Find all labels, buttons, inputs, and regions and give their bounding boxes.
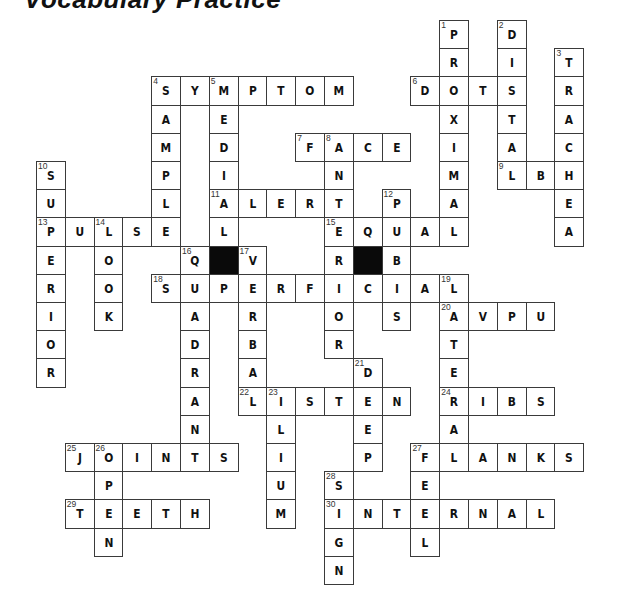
crossword-cell[interactable]: A: [180, 387, 210, 416]
crossword-cell[interactable]: T: [324, 189, 354, 218]
crossword-cell[interactable]: N: [468, 499, 498, 528]
crossword-cell[interactable]: S: [382, 302, 412, 331]
crossword-cell[interactable]: R: [36, 358, 66, 387]
crossword-cell[interactable]: E: [382, 133, 412, 162]
crossword-cell[interactable]: K: [94, 302, 124, 331]
crossword-cell[interactable]: Q: [353, 217, 383, 246]
crossword-cell[interactable]: X: [439, 105, 469, 134]
crossword-cell[interactable]: L: [266, 415, 296, 444]
crossword-cell[interactable]: 7F: [295, 133, 325, 162]
crossword-cell[interactable]: 20A: [439, 302, 469, 331]
crossword-cell[interactable]: C: [353, 274, 383, 303]
crossword-cell[interactable]: R: [439, 499, 469, 528]
crossword-cell[interactable]: L: [439, 443, 469, 472]
crossword-cell[interactable]: P: [497, 302, 527, 331]
crossword-cell[interactable]: N: [180, 415, 210, 444]
crossword-cell[interactable]: 5M: [209, 76, 239, 105]
crossword-cell[interactable]: L: [439, 217, 469, 246]
crossword-cell[interactable]: R: [324, 246, 354, 275]
crossword-cell[interactable]: L: [526, 499, 556, 528]
crossword-cell[interactable]: L: [238, 189, 268, 218]
crossword-cell[interactable]: S: [526, 387, 556, 416]
crossword-cell[interactable]: E: [554, 189, 584, 218]
crossword-cell[interactable]: A: [439, 189, 469, 218]
crossword-cell[interactable]: 1P: [439, 20, 469, 49]
crossword-cell[interactable]: U: [526, 302, 556, 331]
crossword-cell[interactable]: I: [209, 161, 239, 190]
crossword-cell[interactable]: R: [324, 330, 354, 359]
crossword-cell[interactable]: Y: [180, 76, 210, 105]
crossword-cell[interactable]: N: [324, 556, 354, 585]
crossword-cell[interactable]: E: [353, 415, 383, 444]
crossword-cell[interactable]: I: [266, 443, 296, 472]
crossword-cell[interactable]: P: [94, 471, 124, 500]
crossword-cell[interactable]: O: [36, 330, 66, 359]
crossword-cell[interactable]: 30I: [324, 499, 354, 528]
crossword-cell[interactable]: D: [209, 133, 239, 162]
crossword-cell[interactable]: O: [439, 76, 469, 105]
crossword-cell[interactable]: 25J: [65, 443, 95, 472]
crossword-cell[interactable]: I: [497, 48, 527, 77]
crossword-cell[interactable]: C: [554, 133, 584, 162]
crossword-cell[interactable]: 14L: [94, 217, 124, 246]
crossword-cell[interactable]: L: [209, 217, 239, 246]
crossword-cell[interactable]: B: [526, 161, 556, 190]
crossword-cell[interactable]: L: [151, 189, 181, 218]
crossword-cell[interactable]: 4S: [151, 76, 181, 105]
crossword-cell[interactable]: S: [497, 76, 527, 105]
crossword-cell[interactable]: R: [554, 76, 584, 105]
crossword-cell[interactable]: 9L: [497, 161, 527, 190]
crossword-cell[interactable]: N: [382, 387, 412, 416]
crossword-cell[interactable]: A: [497, 133, 527, 162]
crossword-cell[interactable]: T: [439, 330, 469, 359]
crossword-cell[interactable]: E: [410, 499, 440, 528]
crossword-cell[interactable]: E: [209, 105, 239, 134]
crossword-cell[interactable]: A: [410, 274, 440, 303]
crossword-cell[interactable]: E: [238, 274, 268, 303]
crossword-cell[interactable]: R: [36, 274, 66, 303]
crossword-cell[interactable]: 2D: [497, 20, 527, 49]
crossword-cell[interactable]: T: [382, 499, 412, 528]
crossword-cell[interactable]: T: [497, 105, 527, 134]
crossword-cell[interactable]: U: [180, 274, 210, 303]
crossword-cell[interactable]: N: [94, 528, 124, 557]
crossword-cell[interactable]: B: [382, 246, 412, 275]
crossword-cell[interactable]: G: [324, 528, 354, 557]
crossword-cell[interactable]: A: [554, 105, 584, 134]
crossword-cell[interactable]: 22L: [238, 387, 268, 416]
crossword-cell[interactable]: O: [94, 274, 124, 303]
crossword-cell[interactable]: 3T: [554, 48, 584, 77]
crossword-cell[interactable]: 28S: [324, 471, 354, 500]
crossword-cell[interactable]: 17V: [238, 246, 268, 275]
crossword-cell[interactable]: 24R: [439, 387, 469, 416]
crossword-cell[interactable]: 15E: [324, 217, 354, 246]
crossword-cell[interactable]: R: [180, 358, 210, 387]
crossword-cell[interactable]: B: [238, 330, 268, 359]
crossword-cell[interactable]: K: [526, 443, 556, 472]
crossword-cell[interactable]: O: [295, 76, 325, 105]
crossword-cell[interactable]: E: [122, 499, 152, 528]
crossword-cell[interactable]: I: [439, 133, 469, 162]
crossword-cell[interactable]: E: [439, 358, 469, 387]
crossword-cell[interactable]: D: [180, 330, 210, 359]
crossword-cell[interactable]: U: [382, 217, 412, 246]
crossword-cell[interactable]: U: [36, 189, 66, 218]
crossword-cell[interactable]: I: [122, 443, 152, 472]
crossword-cell[interactable]: A: [410, 217, 440, 246]
crossword-cell[interactable]: 6D: [410, 76, 440, 105]
crossword-cell[interactable]: I: [382, 274, 412, 303]
crossword-cell[interactable]: A: [151, 105, 181, 134]
crossword-cell[interactable]: E: [410, 471, 440, 500]
crossword-cell[interactable]: L: [410, 528, 440, 557]
crossword-cell[interactable]: T: [151, 499, 181, 528]
crossword-cell[interactable]: R: [238, 302, 268, 331]
crossword-cell[interactable]: R: [439, 48, 469, 77]
crossword-cell[interactable]: 8A: [324, 133, 354, 162]
crossword-cell[interactable]: A: [468, 443, 498, 472]
crossword-cell[interactable]: N: [353, 499, 383, 528]
crossword-cell[interactable]: 29T: [65, 499, 95, 528]
crossword-cell[interactable]: F: [295, 274, 325, 303]
crossword-cell[interactable]: O: [324, 302, 354, 331]
crossword-cell[interactable]: 12P: [382, 189, 412, 218]
crossword-cell[interactable]: T: [266, 76, 296, 105]
